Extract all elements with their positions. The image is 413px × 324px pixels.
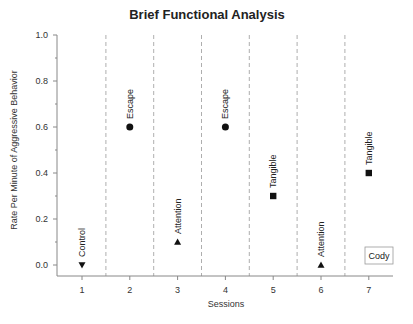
data-point — [270, 193, 276, 199]
y-tick-label: 0.4 — [35, 168, 48, 178]
phase-lines — [106, 35, 345, 276]
condition-label: Escape — [220, 89, 230, 119]
data-point-group: Tangible — [364, 131, 374, 176]
x-tick-label: 1 — [79, 285, 84, 295]
x-tick-label: 7 — [366, 285, 371, 295]
data-point — [318, 262, 325, 268]
y-tick-label: 0.8 — [35, 76, 48, 86]
data-point-group: Attention — [173, 198, 183, 244]
x-tick-label: 5 — [271, 285, 276, 295]
legend-box: Cody — [365, 247, 393, 264]
x-tick-label: 4 — [223, 285, 228, 295]
chart-title: Brief Functional Analysis — [129, 7, 285, 22]
data-point — [366, 170, 372, 176]
data-point-group: Escape — [125, 89, 135, 131]
y-tick-label: 0.2 — [35, 214, 48, 224]
y-tick-label: 1.0 — [35, 30, 48, 40]
legend-label: Cody — [368, 251, 390, 261]
data-point — [126, 124, 133, 131]
condition-label: Attention — [316, 221, 326, 257]
data-point-group: Tangible — [268, 154, 278, 199]
x-tick-label: 3 — [175, 285, 180, 295]
data-point — [79, 262, 86, 268]
y-ticks: 0.00.20.40.60.81.0 — [35, 30, 57, 270]
condition-label: Control — [77, 228, 87, 257]
x-tick-label: 6 — [318, 285, 323, 295]
x-tick-label: 2 — [127, 285, 132, 295]
condition-label: Attention — [173, 198, 183, 234]
x-axis-label: Sessions — [208, 299, 245, 309]
chart: Brief Functional Analysis 0.00.20.40.60.… — [0, 0, 413, 324]
y-tick-label: 0.0 — [35, 260, 48, 270]
data-points: ControlEscapeAttentionEscapeTangibleAtte… — [77, 89, 374, 269]
data-point-group: Attention — [316, 221, 326, 267]
y-axis-label: Rate Per Minute of Aggressive Behavior — [9, 70, 19, 230]
condition-label: Tangible — [268, 154, 278, 188]
data-point — [222, 124, 229, 131]
condition-label: Tangible — [364, 131, 374, 165]
data-point — [174, 239, 181, 245]
y-tick-label: 0.6 — [35, 122, 48, 132]
x-ticks: 1234567 — [79, 276, 371, 295]
condition-label: Escape — [125, 89, 135, 119]
data-point-group: Escape — [220, 89, 230, 131]
data-point-group: Control — [77, 228, 87, 269]
